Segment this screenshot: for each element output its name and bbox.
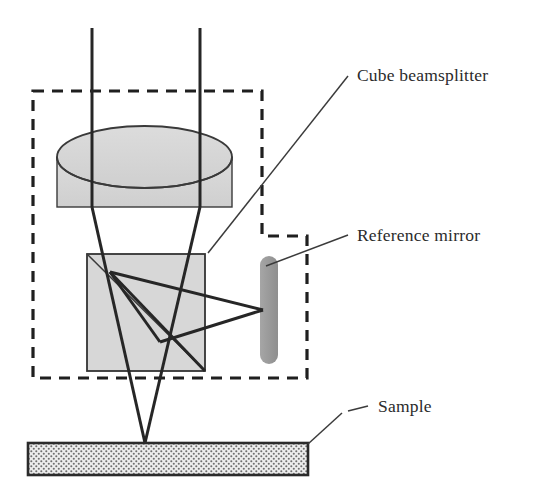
interference-objective-diagram: Cube beamsplitter Reference mirror Sampl…: [0, 0, 548, 497]
label-reference-mirror: Reference mirror: [357, 225, 480, 245]
label-sample: Sample: [378, 396, 432, 416]
leader-line-sample: [308, 413, 342, 444]
diagram-canvas: Cube beamsplitter Reference mirror Sampl…: [0, 0, 548, 497]
leader-line-sample-tick: [348, 406, 368, 411]
label-cube-beamsplitter: Cube beamsplitter: [357, 65, 488, 85]
sample-block: [28, 443, 308, 475]
